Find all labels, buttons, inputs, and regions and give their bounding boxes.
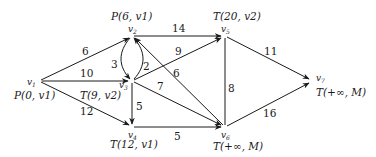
edge-v5-v7 <box>227 37 309 79</box>
weight-v1-v2: 6 <box>82 45 89 57</box>
weight-v3-v6: 7 <box>157 80 164 92</box>
mark-v1: P(0, v1) <box>13 89 55 101</box>
graph-diagram: v1 v2 v3 v4 v5 v6 v7 P(0, v1) P(6, v1) T… <box>0 0 376 157</box>
mark-v5: T(20, v2) <box>213 10 261 22</box>
weight-v3-v2: 2 <box>143 60 150 72</box>
weight-v1-v4: 12 <box>80 105 93 117</box>
weight-v3-v5: 9 <box>175 45 182 57</box>
mark-v3: T(9, v2) <box>80 89 121 101</box>
weight-v4-v6: 5 <box>174 130 181 142</box>
edge-v6-v7 <box>227 83 309 126</box>
node-v5: v5 <box>221 24 230 35</box>
mark-v6: T(+∞, M) <box>213 140 263 152</box>
weight-v6-v2: 6 <box>173 67 180 79</box>
mark-v7: T(+∞, M) <box>316 86 366 98</box>
weight-v5-v7: 11 <box>264 45 277 57</box>
weight-v6-v7: 16 <box>263 107 277 119</box>
weight-v1-v3: 10 <box>80 67 93 79</box>
mark-v4: T(12, v1) <box>110 138 158 150</box>
weight-v2-v3: 3 <box>111 58 118 70</box>
weight-v2-v5: 14 <box>172 22 186 34</box>
weight-v5-v6: 8 <box>228 82 235 94</box>
edge-v3-v6 <box>134 82 221 125</box>
node-v2: v2 <box>128 24 137 35</box>
edge-v2-v3 <box>121 38 130 79</box>
node-v7: v7 <box>316 73 325 84</box>
mark-v2: P(6, v1) <box>110 10 152 22</box>
node-v1: v1 <box>27 77 36 88</box>
weight-v3-v4: 5 <box>136 100 143 112</box>
